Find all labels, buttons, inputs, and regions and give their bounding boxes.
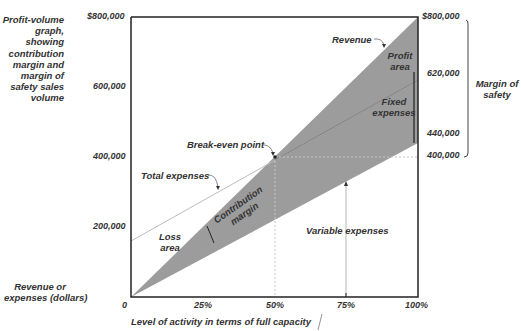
- y-tick-left-400k: 400,000: [93, 151, 126, 162]
- profit-area-label: Profit area: [382, 50, 418, 72]
- loss-area-line2: area: [153, 242, 187, 253]
- y-axis-label-line1: Revenue or: [4, 281, 76, 292]
- profit-area-line2: area: [382, 61, 418, 72]
- margin-of-safety-line1: Margin of: [472, 78, 521, 89]
- loss-area-line1: Loss: [153, 231, 187, 242]
- y-axis-label-line2: expenses (dollars): [4, 292, 76, 303]
- margin-of-safety-label: Margin of safety: [472, 78, 521, 100]
- total-expenses-label: Total expenses: [141, 170, 209, 181]
- variable-expenses-label: Variable expenses: [306, 225, 389, 236]
- arrowhead-icon: [216, 186, 220, 190]
- y-tick-right-440k: 440,000: [427, 128, 460, 139]
- x-axis-label: Level of activity in terms of full capac…: [131, 316, 311, 327]
- y-axis-label: Revenue or expenses (dollars): [4, 281, 76, 303]
- total-expenses-leader: [208, 175, 218, 187]
- chart-canvas: [0, 0, 521, 331]
- x-tick-0: 0: [122, 300, 127, 311]
- x-tick-100: 100%: [405, 300, 428, 311]
- loss-area-label: Loss area: [153, 231, 187, 253]
- arrowhead-icon: [382, 44, 386, 48]
- fixed-expenses-line1: Fixed: [372, 96, 416, 107]
- revenue-label: Revenue: [332, 34, 372, 45]
- y-tick-right-800k: $800,000: [422, 11, 460, 22]
- margin-of-safety-bracket: [464, 20, 468, 157]
- fixed-expenses-label: Fixed expenses: [372, 96, 416, 118]
- margin-of-safety-line2: safety: [472, 89, 521, 100]
- break-even-label: Break-even point: [187, 139, 264, 150]
- y-tick-right-400k: 400,000: [427, 150, 460, 161]
- x-tick-75: 75%: [337, 300, 355, 311]
- y-tick-right-620k: 620,000: [427, 68, 460, 79]
- chart-title: Profit-volume graph, showing contributio…: [0, 14, 64, 104]
- fixed-expenses-line2: expenses: [372, 107, 416, 118]
- x-tick-25: 25%: [194, 300, 212, 311]
- y-tick-left-600k: 600,000: [93, 81, 126, 92]
- xlabel-slash: [318, 314, 322, 330]
- x-tick-50: 50%: [266, 300, 284, 311]
- profit-area-line1: Profit: [382, 50, 418, 61]
- break-even-marker: [273, 155, 277, 159]
- y-tick-left-800k: $800,000: [87, 11, 125, 22]
- y-tick-left-200k: 200,000: [93, 221, 126, 232]
